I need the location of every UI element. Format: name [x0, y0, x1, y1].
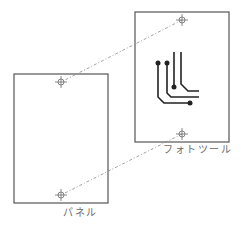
- alignment-diagram: [0, 0, 241, 228]
- crosshair-icon: [55, 189, 67, 201]
- phototool-frame: [135, 12, 229, 142]
- pad: [172, 85, 177, 90]
- pad: [188, 101, 193, 106]
- panel-frame: [14, 74, 108, 203]
- crosshair-icon: [55, 76, 67, 88]
- pad: [165, 61, 170, 66]
- phototool-label: フォトツール: [163, 144, 232, 156]
- pad: [156, 61, 161, 66]
- panel-label: パネル: [63, 207, 98, 219]
